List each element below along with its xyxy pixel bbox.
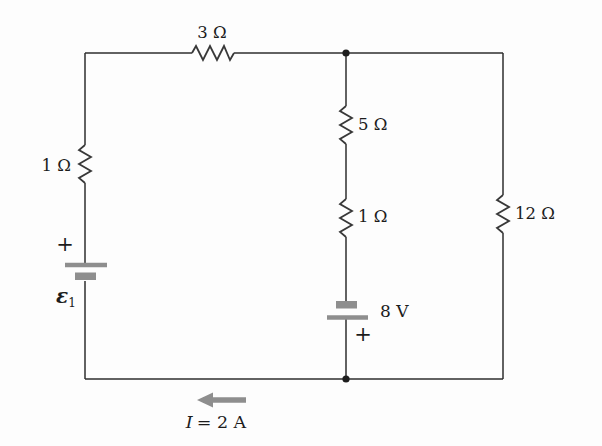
battery-emf1-symbol: ε	[56, 284, 68, 308]
current-indicator: I= 2 A	[185, 393, 247, 433]
resistor-1ohm-left: 1 Ω	[42, 145, 91, 183]
junction-dot-bottom	[342, 375, 349, 382]
resistor-1ohm-middle-zigzag	[340, 199, 352, 237]
current-direction-arrow-icon	[197, 393, 246, 408]
battery-emf1-plus-sign: +	[56, 232, 74, 256]
battery-emf1-subscript: 1	[68, 296, 76, 310]
battery-emf1-short-plate	[75, 273, 96, 281]
resistor-5ohm: 5 Ω	[340, 106, 387, 144]
battery-8v-label: 8 V	[380, 301, 409, 321]
resistor-1ohm-middle: 1 Ω	[340, 199, 387, 237]
resistor-5ohm-label: 5 Ω	[358, 115, 387, 134]
resistor-3ohm-zigzag	[192, 46, 234, 60]
resistor-3ohm: 3 Ω	[192, 23, 234, 60]
resistor-12ohm-label: 12 Ω	[515, 204, 555, 223]
battery-8v: + 8 V	[327, 301, 409, 346]
current-value: = 2 A	[197, 412, 247, 432]
battery-8v-short-plate	[336, 301, 357, 309]
circuit-diagram-canvas: 3 Ω 1 Ω 5 Ω 1 Ω 12 Ω + ε1	[0, 0, 602, 446]
battery-emf1: + ε1	[56, 232, 107, 310]
junction-dot-top	[342, 49, 349, 56]
resistor-1ohm-middle-label: 1 Ω	[358, 207, 387, 226]
circuit-wires	[85, 53, 503, 379]
resistor-5ohm-zigzag	[340, 106, 352, 144]
resistor-12ohm-zigzag	[497, 195, 509, 233]
resistor-1ohm-left-label: 1 Ω	[42, 156, 71, 175]
circuit-diagram: 3 Ω 1 Ω 5 Ω 1 Ω 12 Ω + ε1	[0, 0, 602, 446]
resistor-1ohm-left-zigzag	[79, 145, 91, 183]
current-label: I= 2 A	[185, 412, 247, 432]
current-symbol: I	[185, 412, 194, 432]
battery-8v-plus-sign: +	[354, 322, 372, 346]
resistor-3ohm-label: 3 Ω	[197, 23, 226, 42]
battery-emf1-label: ε1	[56, 284, 76, 310]
resistor-12ohm: 12 Ω	[497, 195, 555, 233]
